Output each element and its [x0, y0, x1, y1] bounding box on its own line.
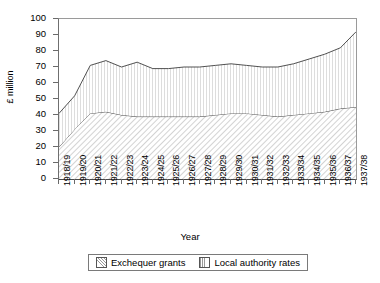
legend-label: Local authority rates: [214, 257, 300, 268]
x-axis-tick-mark: [292, 179, 293, 184]
y-axis-tick-mark: [53, 146, 58, 147]
x-axis-tick-mark: [261, 179, 262, 184]
x-axis-tick-label: 1924/25: [156, 155, 166, 186]
y-axis-tick-label: 0: [20, 173, 46, 182]
chart-figure: £ million 0102030405060708090100 Year Ex…: [0, 0, 380, 283]
x-axis-tick-label: 1920/21: [93, 155, 103, 186]
x-axis-tick-label: 1925/26: [171, 155, 181, 186]
x-axis-tick-mark: [308, 179, 309, 184]
legend-item-exchequer-grants: Exchequer grants: [96, 257, 185, 268]
x-axis-tick-mark: [324, 179, 325, 184]
x-axis-tick-mark: [74, 179, 75, 184]
y-axis-tick-label: 100: [20, 13, 46, 22]
y-axis-tick-mark: [53, 114, 58, 115]
y-axis-tick-label: 50: [20, 93, 46, 102]
x-axis-tick-label: 1930/31: [250, 155, 260, 186]
y-axis-title: £ million: [5, 55, 15, 119]
x-axis-tick-label: 1919/20: [78, 155, 88, 186]
y-axis-tick-label: 90: [20, 29, 46, 38]
x-axis-tick-label: 1934/35: [312, 155, 322, 186]
x-axis-title: Year: [0, 231, 380, 242]
y-axis-tick-label: 80: [20, 45, 46, 54]
x-axis-tick-mark: [167, 179, 168, 184]
x-axis-tick-mark: [339, 179, 340, 184]
x-axis-tick-mark: [199, 179, 200, 184]
x-axis-tick-label: 1932/33: [281, 155, 291, 186]
x-axis-tick-mark: [214, 179, 215, 184]
x-axis-tick-mark: [105, 179, 106, 184]
y-axis-tick-label: 10: [20, 157, 46, 166]
x-axis-tick-label: 1923/24: [140, 155, 150, 186]
y-axis-tick-mark: [53, 66, 58, 67]
y-axis-tick-label: 40: [20, 109, 46, 118]
x-axis-tick-mark: [152, 179, 153, 184]
legend-label: Exchequer grants: [111, 257, 185, 268]
x-axis-tick-label: 1922/23: [125, 155, 135, 186]
x-axis-tick-label: 1921/22: [109, 155, 119, 186]
x-axis-tick-mark: [121, 179, 122, 184]
y-axis-tick-mark: [53, 34, 58, 35]
x-axis-tick-label: 1936/37: [343, 155, 353, 186]
x-axis-tick-label: 1933/34: [296, 155, 306, 186]
x-axis-tick-label: 1929/30: [234, 155, 244, 186]
y-axis-tick-label: 30: [20, 125, 46, 134]
vertical-hatch-swatch-icon: [199, 257, 210, 268]
x-axis-tick-mark: [89, 179, 90, 184]
x-axis-tick-label: 1935/36: [328, 155, 338, 186]
chart-legend: Exchequer grants Local authority rates: [88, 254, 308, 271]
x-axis-tick-label: 1926/27: [187, 155, 197, 186]
x-axis-tick-mark: [230, 179, 231, 184]
y-axis-tick-mark: [53, 50, 58, 51]
y-axis-tick-label: 20: [20, 141, 46, 150]
x-axis-tick-label: 1927/28: [203, 155, 213, 186]
y-axis-tick-mark: [53, 18, 58, 19]
y-axis-tick-label: 70: [20, 61, 46, 70]
x-axis-tick-mark: [58, 179, 59, 184]
x-axis-tick-mark: [136, 179, 137, 184]
x-axis-tick-mark: [277, 179, 278, 184]
x-axis-tick-label: 1928/29: [218, 155, 228, 186]
y-axis-tick-mark: [53, 98, 58, 99]
y-axis-tick-label: 60: [20, 77, 46, 86]
legend-item-local-authority-rates: Local authority rates: [199, 257, 300, 268]
y-axis-tick-mark: [53, 130, 58, 131]
x-axis-tick-mark: [355, 179, 356, 184]
x-axis-tick-mark: [183, 179, 184, 184]
x-axis-tick-label: 1931/32: [265, 155, 275, 186]
x-axis-tick-label: 1918/19: [62, 155, 72, 186]
diagonal-hatch-swatch-icon: [96, 257, 107, 268]
y-axis-tick-mark: [53, 82, 58, 83]
x-axis-tick-label: 1937/38: [359, 155, 369, 186]
y-axis-tick-mark: [53, 162, 58, 163]
x-axis-tick-mark: [246, 179, 247, 184]
